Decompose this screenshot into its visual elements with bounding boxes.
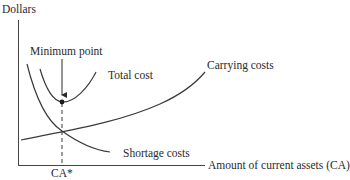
total-cost-label: Total cost xyxy=(108,70,153,82)
carrying-costs-curve xyxy=(21,72,205,140)
x-axis-label: Amount of current assets (CA) xyxy=(208,160,350,172)
minimum-point-marker xyxy=(60,100,65,105)
shortage-costs-curve xyxy=(27,64,110,152)
carrying-costs-label: Carrying costs xyxy=(207,60,274,72)
y-axis-label: Dollars xyxy=(2,4,36,16)
total-cost-curve xyxy=(40,69,96,102)
shortage-costs-label: Shortage costs xyxy=(123,148,190,160)
minimum-point-label: Minimum point xyxy=(30,46,103,58)
ca-star-label: CA* xyxy=(51,168,73,180)
